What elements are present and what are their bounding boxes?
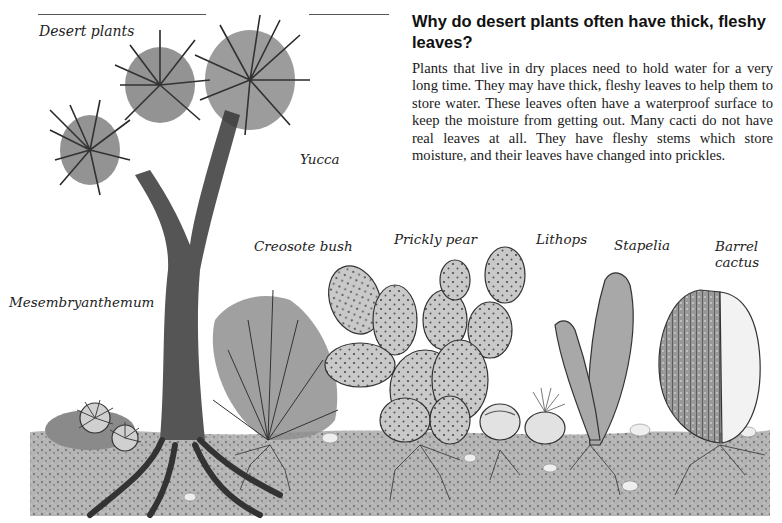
label-yucca: Yucca <box>300 151 340 167</box>
label-creosote-bush: Creosote bush <box>254 238 353 254</box>
creosote-bush-plant <box>213 290 338 440</box>
label-stapelia: Stapelia <box>614 237 670 253</box>
label-lithops: Lithops <box>536 231 587 247</box>
label-barrel-cactus-line2: cactus <box>715 254 759 270</box>
label-prickly-pear: Prickly pear <box>394 231 477 247</box>
stapelia-plant <box>555 273 633 445</box>
label-barrel-cactus-line1: Barrel <box>715 238 758 254</box>
barrel-cactus-plant <box>659 290 760 443</box>
label-mesembryanthemum: Mesembryanthemum <box>9 294 154 310</box>
mesembryanthemum-plant <box>45 400 141 451</box>
desert-plants-illustration <box>0 0 782 523</box>
